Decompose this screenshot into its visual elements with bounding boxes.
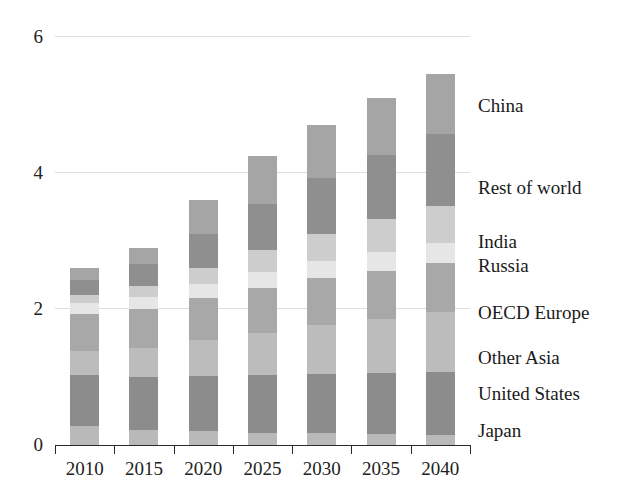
bar-2015 <box>129 37 158 445</box>
bar-segment-2030-russia <box>307 261 336 279</box>
bar-segment-2040-united-states <box>426 372 455 435</box>
x-tick-3 <box>233 445 234 454</box>
y-tick-label-6: 6 <box>34 27 44 46</box>
legend-label-russia: Russia <box>478 255 529 274</box>
bar-segment-2040-india <box>426 206 455 243</box>
bar-segment-2025-oecd-europe <box>248 288 277 333</box>
bar-segment-2015-china <box>129 248 158 264</box>
bar-segment-2040-china <box>426 74 455 134</box>
bar-2040 <box>426 37 455 445</box>
x-tick-label-2015: 2015 <box>125 459 163 478</box>
x-tick-0 <box>55 445 56 454</box>
bar-segment-2020-united-states <box>189 376 218 432</box>
x-tick-label-2030: 2030 <box>303 459 341 478</box>
y-tick-label-0: 0 <box>34 435 44 454</box>
bar-segment-2040-rest-of-world <box>426 134 455 205</box>
bar-segment-2025-rest-of-world <box>248 204 277 250</box>
bar-segment-2010-japan <box>70 426 99 445</box>
bar-segment-2040-russia <box>426 243 455 263</box>
bar-2025 <box>248 37 277 445</box>
legend-label-other-asia: Other Asia <box>478 347 560 366</box>
bar-segment-2015-united-states <box>129 377 158 430</box>
bar-2010 <box>70 37 99 445</box>
bar-segment-2030-united-states <box>307 374 336 434</box>
x-tick-label-2035: 2035 <box>362 459 400 478</box>
bar-segment-2010-russia <box>70 303 99 314</box>
bar-segment-2020-other-asia <box>189 340 218 375</box>
bar-segment-2020-japan <box>189 431 218 445</box>
x-tick-label-2040: 2040 <box>421 459 459 478</box>
bar-segment-2030-oecd-europe <box>307 278 336 324</box>
legend-label-rest-of-world: Rest of world <box>478 177 581 196</box>
legend-label-japan: Japan <box>478 421 521 440</box>
bar-segment-2030-other-asia <box>307 325 336 374</box>
y-tick-label-2: 2 <box>34 299 44 318</box>
x-tick-label-2020: 2020 <box>184 459 222 478</box>
bar-segment-2010-united-states <box>70 375 99 426</box>
bar-segment-2025-india <box>248 250 277 272</box>
bar-segment-2035-russia <box>367 252 396 271</box>
plot-area: 0246 <box>55 37 470 445</box>
bar-segment-2010-china <box>70 268 99 280</box>
bar-segment-2010-oecd-europe <box>70 314 99 351</box>
legend-label-india: India <box>478 232 517 251</box>
bar-segment-2035-other-asia <box>367 319 396 373</box>
x-axis-line <box>55 445 470 446</box>
bar-segment-2030-japan <box>307 433 336 445</box>
bar-segment-2040-oecd-europe <box>426 263 455 312</box>
y-tick-label-4: 4 <box>34 163 44 182</box>
legend-label-oecd-europe: OECD Europe <box>478 303 589 322</box>
bar-segment-2010-rest-of-world <box>70 280 99 295</box>
bar-segment-2015-india <box>129 286 158 297</box>
bar-segment-2020-russia <box>189 284 218 298</box>
bar-segment-2020-rest-of-world <box>189 234 218 268</box>
bar-segment-2015-other-asia <box>129 348 158 377</box>
bar-segment-2040-other-asia <box>426 312 455 372</box>
x-tick-6 <box>411 445 412 454</box>
bar-segment-2015-japan <box>129 430 158 445</box>
legend-label-china: China <box>478 96 523 115</box>
bar-segment-2035-rest-of-world <box>367 155 396 220</box>
bar-segment-2035-united-states <box>367 373 396 434</box>
bar-segment-2015-rest-of-world <box>129 264 158 286</box>
bar-segment-2035-japan <box>367 434 396 445</box>
bar-segment-2035-china <box>367 98 396 154</box>
bar-2030 <box>307 37 336 445</box>
bar-2035 <box>367 37 396 445</box>
x-tick-4 <box>292 445 293 454</box>
bar-segment-2025-china <box>248 156 277 204</box>
bar-segment-2010-india <box>70 295 99 303</box>
bar-segment-2020-oecd-europe <box>189 298 218 340</box>
x-tick-5 <box>351 445 352 454</box>
x-tick-1 <box>114 445 115 454</box>
bar-segment-2035-india <box>367 219 396 252</box>
bar-segment-2035-oecd-europe <box>367 271 396 319</box>
bar-segment-2025-russia <box>248 272 277 288</box>
bar-2020 <box>189 37 218 445</box>
bar-segment-2010-other-asia <box>70 351 99 375</box>
x-tick-label-2025: 2025 <box>244 459 282 478</box>
x-tick-label-2010: 2010 <box>66 459 104 478</box>
x-tick-7 <box>470 445 471 454</box>
bar-segment-2015-oecd-europe <box>129 309 158 348</box>
bar-segment-2040-japan <box>426 435 455 445</box>
bar-segment-2020-india <box>189 268 218 284</box>
bar-segment-2030-china <box>307 125 336 177</box>
bar-segment-2015-russia <box>129 297 158 309</box>
bar-segment-2030-india <box>307 234 336 261</box>
bar-segment-2025-other-asia <box>248 333 277 375</box>
bar-segment-2020-china <box>189 200 218 233</box>
bar-segment-2025-japan <box>248 433 277 445</box>
bar-segment-2030-rest-of-world <box>307 178 336 234</box>
bar-segment-2025-united-states <box>248 375 277 433</box>
x-tick-2 <box>174 445 175 454</box>
stacked-bar-chart: 0246 2010201520202025203020352040 ChinaR… <box>0 0 623 504</box>
legend-label-united-states: United States <box>478 383 580 402</box>
